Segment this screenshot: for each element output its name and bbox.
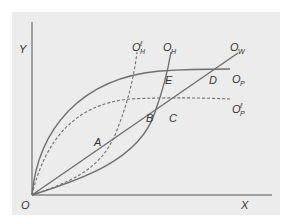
point-b-label: B (146, 112, 153, 124)
contract-curve-diagram: Y O X O ℓ H O H O W O P O ℓ P A B C D E (0, 0, 289, 223)
svg-text:P: P (240, 110, 245, 117)
y-axis-label: Y (19, 43, 27, 55)
svg-text:H: H (171, 48, 177, 55)
point-d-label: D (209, 74, 217, 86)
point-a-label: A (93, 136, 101, 148)
svg-text:W: W (238, 48, 246, 55)
curve-oh-prime (32, 52, 137, 195)
label-oh: O H (163, 41, 177, 55)
origin-label: O (21, 199, 30, 211)
label-op: O P (232, 73, 245, 87)
label-ow: O W (230, 41, 246, 55)
point-c-label: C (169, 112, 177, 124)
svg-text:ℓ: ℓ (139, 40, 143, 47)
curve-op-prime (32, 98, 230, 195)
svg-text:ℓ: ℓ (239, 102, 243, 109)
point-e-label: E (165, 74, 173, 86)
svg-text:H: H (140, 48, 146, 55)
svg-text:P: P (240, 80, 245, 87)
label-op-prime: O ℓ P (232, 102, 245, 117)
label-oh-prime: O ℓ H (132, 40, 146, 55)
x-axis-label: X (240, 199, 249, 211)
